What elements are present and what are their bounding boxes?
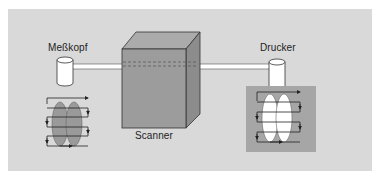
printer-label: Drucker xyxy=(260,42,296,53)
probe-cylinder xyxy=(57,57,73,86)
printer-cylinder xyxy=(269,59,285,90)
scanner-box xyxy=(122,32,200,128)
probe-scan-pattern xyxy=(47,98,88,146)
rod-left xyxy=(70,64,123,69)
rod-right xyxy=(199,64,277,69)
printer-scan-pattern xyxy=(246,86,316,152)
scanner-diagram xyxy=(0,0,384,181)
probe-label: Meßkopf xyxy=(48,42,88,53)
scanner-label: Scanner xyxy=(135,130,173,141)
